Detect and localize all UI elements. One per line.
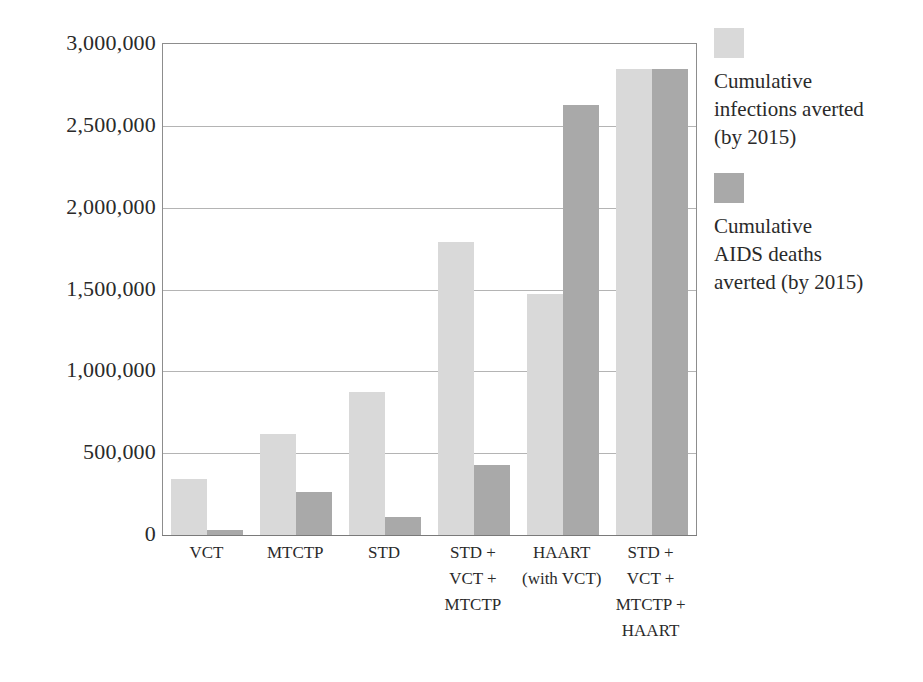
x-axis-label-line: MTCTP + bbox=[606, 592, 695, 618]
y-axis-tick-label: 500,000 bbox=[6, 441, 156, 463]
bar-infections-averted bbox=[438, 242, 474, 535]
plot-area bbox=[162, 43, 696, 535]
bar-aids-deaths-averted bbox=[563, 105, 599, 535]
bar-aids-deaths-averted bbox=[296, 492, 332, 535]
x-axis-label-3: STD +VCT +MTCTP bbox=[429, 540, 518, 618]
legend-label-line: (by 2015) bbox=[714, 123, 919, 151]
legend-entry-infections-averted: Cumulativeinfections averted(by 2015) bbox=[714, 28, 919, 151]
legend-label-line: infections averted bbox=[714, 95, 919, 123]
chart-figure: 3,000,0002,500,0002,000,0001,500,0001,00… bbox=[0, 0, 923, 682]
legend-swatch-icon bbox=[714, 173, 744, 203]
bar-infections-averted bbox=[527, 294, 563, 535]
chart-legend: Cumulativeinfections averted(by 2015)Cum… bbox=[714, 28, 919, 318]
x-axis-label-line: HAART bbox=[517, 540, 606, 566]
legend-label-line: averted (by 2015) bbox=[714, 268, 919, 296]
bar-infections-averted bbox=[616, 69, 652, 535]
bar-aids-deaths-averted bbox=[385, 517, 421, 535]
x-axis-baseline bbox=[162, 535, 697, 536]
x-axis-label-line: (with VCT) bbox=[517, 566, 606, 592]
x-axis-label-line: MTCTP bbox=[429, 592, 518, 618]
legend-label-line: Cumulative bbox=[714, 67, 919, 95]
x-axis-label-line: VCT bbox=[162, 540, 251, 566]
y-axis-tick-label: 2,500,000 bbox=[6, 114, 156, 136]
legend-entry-aids-deaths-averted: CumulativeAIDS deathsaverted (by 2015) bbox=[714, 173, 919, 296]
x-axis-labels: VCTMTCTPSTDSTD +VCT +MTCTPHAART(with VCT… bbox=[162, 540, 695, 680]
plot-right-edge bbox=[696, 43, 697, 536]
legend-label-line: AIDS deaths bbox=[714, 240, 919, 268]
legend-label: CumulativeAIDS deathsaverted (by 2015) bbox=[714, 212, 919, 296]
bar-infections-averted bbox=[171, 479, 207, 535]
bar-infections-averted bbox=[260, 434, 296, 535]
bar-aids-deaths-averted bbox=[474, 465, 510, 535]
bar-infections-averted bbox=[349, 392, 385, 535]
y-axis: 3,000,0002,500,0002,000,0001,500,0001,00… bbox=[0, 0, 156, 560]
bar-aids-deaths-averted bbox=[652, 69, 688, 535]
x-axis-label-0: VCT bbox=[162, 540, 251, 566]
y-axis-tick-label: 3,000,000 bbox=[6, 32, 156, 54]
x-axis-label-line: STD + bbox=[606, 540, 695, 566]
x-axis-label-5: STD +VCT +MTCTP +HAART bbox=[606, 540, 695, 644]
y-axis-tick-label: 0 bbox=[6, 523, 156, 545]
x-axis-label-line: HAART bbox=[606, 618, 695, 644]
y-axis-tick-label: 1,500,000 bbox=[6, 278, 156, 300]
x-axis-label-line: STD + bbox=[429, 540, 518, 566]
x-axis-label-line: VCT + bbox=[606, 566, 695, 592]
y-axis-tick-label: 1,000,000 bbox=[6, 359, 156, 381]
legend-swatch-icon bbox=[714, 28, 744, 58]
y-axis-tick-label: 2,000,000 bbox=[6, 196, 156, 218]
x-axis-label-line: MTCTP bbox=[251, 540, 340, 566]
legend-label-line: Cumulative bbox=[714, 212, 919, 240]
bar-aids-deaths-averted bbox=[207, 530, 243, 535]
x-axis-label-line: VCT + bbox=[429, 566, 518, 592]
legend-label: Cumulativeinfections averted(by 2015) bbox=[714, 67, 919, 151]
x-axis-label-1: MTCTP bbox=[251, 540, 340, 566]
x-axis-label-4: HAART(with VCT) bbox=[517, 540, 606, 592]
x-axis-label-2: STD bbox=[340, 540, 429, 566]
x-axis-label-line: STD bbox=[340, 540, 429, 566]
